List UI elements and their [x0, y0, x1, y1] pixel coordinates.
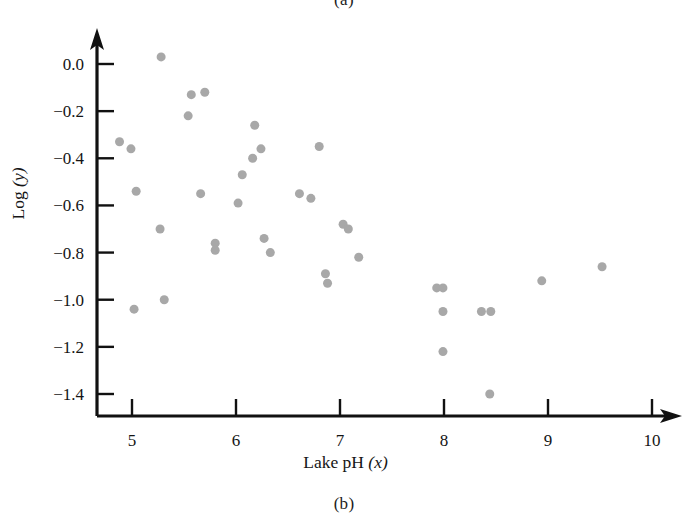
scatter-point	[438, 283, 447, 292]
scatter-point	[486, 307, 495, 316]
scatter-point	[323, 279, 332, 288]
scatter-point	[115, 137, 124, 146]
scatter-plot: 0.0−0.2−0.4−0.6−0.8−1.0−1.2−1.4 5678910	[0, 0, 691, 450]
y-tick-label: −0.2	[53, 102, 84, 121]
y-tick-label: −1.4	[53, 385, 84, 404]
scatter-point	[344, 225, 353, 234]
axis-lines	[90, 28, 682, 423]
scatter-point	[438, 347, 447, 356]
x-tick-label: 7	[336, 431, 345, 450]
scatter-point	[238, 170, 247, 179]
scatter-point	[266, 248, 275, 257]
x-axis-title-variable: (x)	[368, 452, 387, 472]
scatter-point	[200, 88, 209, 97]
x-tick-label: 9	[544, 431, 553, 450]
scatter-point	[132, 187, 141, 196]
scatter-point	[485, 390, 494, 399]
y-axis-title-text: Log	[8, 191, 28, 219]
scatter-point	[126, 144, 135, 153]
scatter-point	[160, 295, 169, 304]
y-tick-label: 0.0	[63, 55, 84, 74]
y-axis-title: Log (y)	[8, 124, 29, 264]
figure-caption-b: (b)	[24, 494, 664, 514]
axis-tick-marks	[98, 64, 652, 415]
scatter-point	[438, 307, 447, 316]
y-axis-title-variable: (y)	[8, 168, 28, 187]
scatter-point	[184, 111, 193, 120]
x-axis-title: Lake pH (x)	[0, 452, 691, 473]
scatter-point	[156, 225, 165, 234]
x-axis-tick-labels: 5678910	[128, 431, 661, 450]
scatter-point	[477, 307, 486, 316]
scatter-point	[598, 262, 607, 271]
x-tick-label: 6	[232, 431, 241, 450]
scatter-point	[211, 246, 220, 255]
x-axis-title-text: Lake pH	[303, 452, 364, 472]
scatter-points-group	[115, 52, 607, 398]
scatter-point	[321, 269, 330, 278]
scatter-point	[187, 90, 196, 99]
scatter-point	[315, 142, 324, 151]
y-tick-label: −1.0	[53, 291, 84, 310]
x-tick-label: 5	[128, 431, 137, 450]
scatter-point	[250, 121, 259, 130]
scatter-point	[295, 189, 304, 198]
scatter-point	[537, 276, 546, 285]
scatter-point	[256, 144, 265, 153]
scatter-point	[354, 253, 363, 262]
y-tick-label: −1.2	[53, 338, 84, 357]
y-axis-tick-labels: 0.0−0.2−0.4−0.6−0.8−1.0−1.2−1.4	[53, 55, 84, 404]
x-tick-label: 10	[644, 431, 661, 450]
scatter-point	[130, 305, 139, 314]
y-tick-label: −0.6	[53, 196, 84, 215]
scatter-point	[196, 189, 205, 198]
scatter-point	[234, 199, 243, 208]
y-tick-label: −0.8	[53, 244, 84, 263]
scatter-point	[306, 194, 315, 203]
y-tick-label: −0.4	[53, 149, 84, 168]
scatter-point	[260, 234, 269, 243]
x-tick-label: 8	[440, 431, 449, 450]
scatter-point	[157, 52, 166, 61]
figure-container: (a) 0.0−0.2−0.4−0.6−0.8−1.0−1.2−1.4 5678…	[0, 0, 691, 525]
scatter-point	[248, 154, 257, 163]
